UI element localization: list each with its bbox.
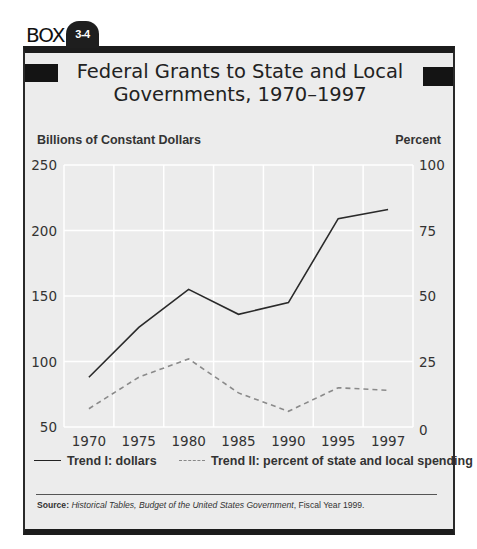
source-label: Source: <box>37 500 69 510</box>
left-axis-tick-label: 50 <box>40 419 57 435</box>
legend-label-trend2: Trend II: percent of state and local spe… <box>211 454 473 468</box>
x-axis-tick-label: 1985 <box>221 433 255 449</box>
right-axis-tick-label: 25 <box>419 354 436 370</box>
left-axis-tick-label: 200 <box>31 223 57 239</box>
x-axis-tick-label: 1975 <box>122 433 156 449</box>
left-axis-tick-label: 250 <box>31 157 57 173</box>
source-note: Source: Historical Tables, Budget of the… <box>37 500 364 510</box>
right-axis-tick-label: 0 <box>419 422 428 438</box>
solid-line-swatch <box>34 460 61 461</box>
legend-item-trend1: Trend I: dollars <box>34 454 157 468</box>
legend-item-trend2: Trend II: percent of state and local spe… <box>179 454 473 468</box>
x-axis-tick-label: 1980 <box>171 433 205 449</box>
x-axis-tick-label: 1997 <box>371 433 405 449</box>
source-title: Historical Tables, Budget of the United … <box>71 500 293 510</box>
source-rest: , Fiscal Year 1999. <box>294 500 365 510</box>
left-axis-tick-label: 150 <box>31 288 57 304</box>
x-axis-tick-label: 1970 <box>72 433 106 449</box>
dashed-line-swatch <box>179 460 205 461</box>
x-axis-tick-label: 1995 <box>321 433 355 449</box>
left-axis-tick-label: 100 <box>31 354 57 370</box>
right-axis-tick-label: 50 <box>419 288 436 304</box>
legend-label-trend1: Trend I: dollars <box>67 454 157 468</box>
source-divider <box>36 494 437 495</box>
right-axis-tick-label: 75 <box>419 223 436 239</box>
x-axis-tick-label: 1990 <box>271 433 305 449</box>
right-axis-tick-label: 100 <box>419 157 445 173</box>
